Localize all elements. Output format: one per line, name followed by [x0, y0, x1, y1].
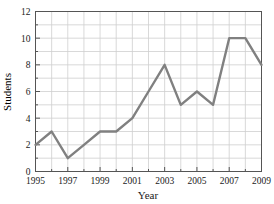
x-tick-label: 2007 — [220, 176, 239, 186]
y-tick-label: 6 — [26, 87, 31, 97]
x-tick-label: 2003 — [155, 176, 174, 186]
x-tick-label: 1995 — [26, 176, 45, 186]
y-tick-label: 4 — [26, 114, 31, 124]
chart-figure: 024681012 199519971999200120032005200720… — [0, 0, 274, 204]
y-tick-label: 8 — [26, 60, 31, 70]
x-tick-label: 1999 — [91, 176, 110, 186]
x-tick-label: 1997 — [58, 176, 77, 186]
chart-background — [0, 0, 274, 204]
x-tick-label: 2009 — [252, 176, 271, 186]
x-tick-label: 2005 — [187, 176, 206, 186]
y-tick-label: 2 — [26, 140, 31, 150]
y-tick-label: 12 — [21, 7, 31, 17]
x-tick-label: 2001 — [123, 176, 142, 186]
y-tick-label: 10 — [21, 34, 31, 44]
x-axis-title: Year — [138, 189, 159, 201]
line-chart: 024681012 199519971999200120032005200720… — [0, 0, 274, 204]
y-axis-title: Students — [1, 73, 13, 111]
